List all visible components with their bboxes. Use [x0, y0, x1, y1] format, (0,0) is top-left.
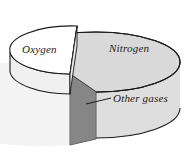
label-nitrogen: Nitrogen: [109, 42, 149, 54]
label-other-gases: Other gases: [113, 92, 168, 104]
pie-chart-graphic: [0, 0, 193, 160]
air-composition-pie-figure: Oxygen Nitrogen Other gases: [0, 0, 193, 160]
label-oxygen: Oxygen: [22, 43, 57, 55]
